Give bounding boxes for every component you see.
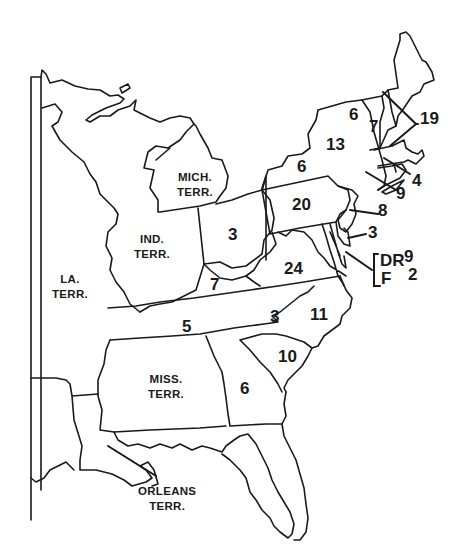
legend-dr-value: 9 xyxy=(404,248,413,265)
leader-3-delaware xyxy=(348,234,366,238)
texas-coast xyxy=(31,462,74,482)
label-orleans-terr: ORLEANS TERR. xyxy=(138,484,196,514)
leader-19 xyxy=(383,92,418,146)
legend-f-label: F xyxy=(381,270,391,287)
label-georgia: 6 xyxy=(240,380,249,397)
label-new-jersey: 8 xyxy=(378,202,387,219)
label-connecticut: 9 xyxy=(396,185,405,202)
florida-east-coast xyxy=(282,424,308,540)
label-virginia: 24 xyxy=(284,260,303,277)
label-vermont: 6 xyxy=(349,106,358,123)
ohio-west-border xyxy=(198,208,204,264)
leader-8 xyxy=(350,210,378,214)
label-mich-terr: MICH. TERR. xyxy=(177,170,213,200)
label-miss-terr: MISS. TERR. xyxy=(148,372,184,402)
tennessee-border xyxy=(110,286,314,340)
label-massachusetts: 19 xyxy=(420,110,439,127)
label-la-terr: LA. TERR. xyxy=(52,272,88,302)
label-tennessee: 5 xyxy=(182,318,191,335)
virginia-west xyxy=(246,276,260,286)
label-new-hampshire: 7 xyxy=(369,118,378,135)
label-ind-terr: IND. TERR. xyxy=(134,232,170,262)
label-nc-west: 3 xyxy=(270,308,279,325)
leader-orleans xyxy=(108,446,156,476)
virginia-nc-border xyxy=(108,276,340,308)
leader-dr-f xyxy=(346,252,372,270)
legend-dr-label: DR xyxy=(380,252,405,269)
label-south-carolina: 10 xyxy=(278,348,297,365)
label-north-carolina: 11 xyxy=(310,306,328,323)
ind-terr-border xyxy=(41,70,194,124)
la-terr-west-border xyxy=(31,77,41,520)
label-rhode-island: 4 xyxy=(412,172,421,189)
label-new-york: 13 xyxy=(326,136,345,153)
label-pennsylvania: 20 xyxy=(292,196,311,213)
south-carolina-border xyxy=(240,334,312,392)
label-ohio: 3 xyxy=(228,226,237,243)
label-new-york-west: 6 xyxy=(297,158,306,175)
label-delaware: 3 xyxy=(368,224,377,241)
label-kentucky: 7 xyxy=(210,276,219,293)
legend-f-value: 2 xyxy=(408,266,417,283)
